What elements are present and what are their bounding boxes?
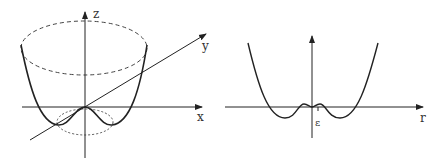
diagram-canvas: z x y ε r [0, 0, 443, 163]
r-axis-label: r [420, 111, 426, 125]
epsilon-label: ε [315, 117, 320, 128]
potential-curve-3d [21, 45, 147, 125]
surface-rim-ellipse [21, 21, 147, 75]
y-axis-label: y [201, 39, 209, 53]
right-panel-radial-potential: ε r [225, 36, 426, 138]
x-axis-label: x [197, 110, 204, 124]
left-panel-3d-potential: z x y [21, 7, 209, 158]
z-axis-label: z [93, 7, 99, 21]
